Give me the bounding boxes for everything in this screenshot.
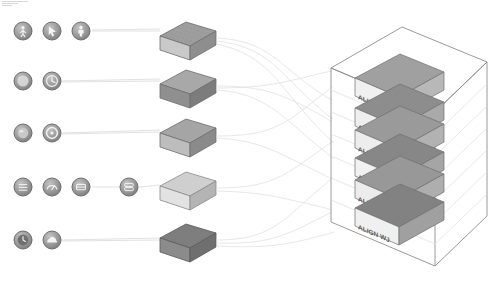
tray-icon[interactable] (72, 178, 90, 196)
orb-icon[interactable] (14, 124, 32, 142)
diagram-canvas: Multi-stage data fusion pipeline diagram (0, 0, 495, 287)
sensor-to-stage-links (62, 29, 160, 241)
gauge-icon[interactable] (43, 178, 61, 196)
pedestrian-icon[interactable] (14, 22, 32, 40)
grid-icon[interactable] (14, 178, 32, 196)
stage-to-output-links (216, 38, 334, 247)
dial-icon[interactable] (43, 72, 61, 90)
server-icon[interactable] (120, 178, 138, 196)
block-1[interactable] (160, 22, 216, 60)
cloud-icon[interactable] (43, 231, 61, 249)
person-marker-icon[interactable] (72, 22, 90, 40)
block-5[interactable] (160, 224, 216, 262)
block-3[interactable] (160, 119, 216, 157)
cursor-icon[interactable] (43, 22, 61, 40)
ring-icon[interactable] (43, 124, 61, 142)
block-2[interactable] (160, 70, 216, 108)
block-4[interactable] (160, 172, 216, 210)
diagram-vector-layer: ALIGN WJ ALIGN WJ ALIGN WJ (0, 0, 495, 287)
circle-blank-icon[interactable] (14, 72, 32, 90)
clock-icon[interactable] (14, 231, 32, 249)
